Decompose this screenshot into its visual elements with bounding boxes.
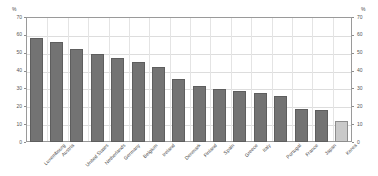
bar-portugal bbox=[274, 96, 287, 142]
tick-mark-right bbox=[352, 53, 354, 54]
tick-mark-right bbox=[352, 35, 354, 36]
tick-label-left-50: 50 bbox=[6, 50, 22, 55]
left-axis-unit-label: % bbox=[12, 7, 16, 12]
bar-united-states bbox=[70, 49, 83, 142]
right-axis-unit-label: % bbox=[361, 7, 365, 12]
tick-label-right-30: 30 bbox=[357, 86, 373, 91]
category-label-finland: Finland bbox=[203, 143, 218, 158]
tick-mark-right bbox=[352, 124, 354, 125]
bars-container bbox=[26, 17, 352, 142]
bar-germany bbox=[111, 58, 124, 142]
category-label-japan: Japan bbox=[324, 143, 337, 156]
tick-label-left-60: 60 bbox=[6, 32, 22, 37]
tick-label-right-10: 10 bbox=[357, 122, 373, 127]
tick-label-right-70: 70 bbox=[357, 15, 373, 20]
bar-spain bbox=[213, 89, 226, 142]
tick-label-left-40: 40 bbox=[6, 68, 22, 73]
tick-mark-right bbox=[352, 71, 354, 72]
bar-ireland bbox=[152, 67, 165, 142]
bar-netherlands bbox=[91, 54, 104, 142]
tick-label-left-30: 30 bbox=[6, 86, 22, 91]
bar-france bbox=[295, 109, 308, 142]
tick-label-right-50: 50 bbox=[357, 50, 373, 55]
tick-mark-right bbox=[352, 88, 354, 89]
bar-finland bbox=[193, 86, 206, 142]
tick-mark-right bbox=[352, 106, 354, 107]
bar-belgium bbox=[132, 62, 145, 142]
tick-mark-right bbox=[352, 17, 354, 18]
category-label-france: France bbox=[305, 143, 320, 158]
bar-luxembourg bbox=[30, 38, 43, 142]
bar-austria bbox=[50, 42, 63, 142]
category-labels: LuxembourgAustriaUnited StatesNetherland… bbox=[26, 143, 352, 176]
bar-korea bbox=[335, 121, 348, 142]
category-label-portugal: Portugal bbox=[285, 143, 302, 160]
bar-japan bbox=[315, 110, 328, 142]
bar-greece bbox=[233, 91, 246, 142]
category-label-korea: Korea bbox=[345, 143, 358, 156]
category-label-belgium: Belgium bbox=[142, 143, 158, 159]
category-label-italy: Italy bbox=[262, 143, 272, 153]
tick-label-left-20: 20 bbox=[6, 104, 22, 109]
category-label-denmark: Denmark bbox=[184, 143, 202, 161]
tick-label-left-10: 10 bbox=[6, 122, 22, 127]
tick-label-left-0: 0 bbox=[6, 140, 22, 145]
category-label-greece: Greece bbox=[244, 143, 259, 158]
tick-label-left-70: 70 bbox=[6, 15, 22, 20]
category-label-ireland: Ireland bbox=[162, 143, 176, 157]
tick-label-right-60: 60 bbox=[357, 32, 373, 37]
category-label-spain: Spain bbox=[222, 143, 235, 156]
tick-label-right-20: 20 bbox=[357, 104, 373, 109]
bar-denmark bbox=[172, 79, 185, 142]
bar-italy bbox=[254, 93, 267, 142]
bar-chart: % % 001010202030304040505060607070 Luxem… bbox=[0, 0, 378, 176]
tick-label-right-40: 40 bbox=[357, 68, 373, 73]
tick-label-right-0: 0 bbox=[357, 140, 373, 145]
